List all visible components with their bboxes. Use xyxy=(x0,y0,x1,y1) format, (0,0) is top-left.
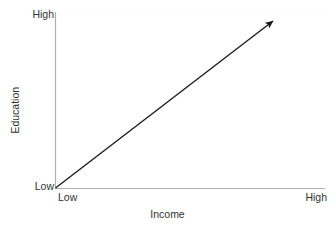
chart-plot-area xyxy=(0,0,335,227)
y-axis-tick-low: Low xyxy=(35,181,54,192)
x-axis-tick-low: Low xyxy=(58,192,77,203)
x-axis-title: Income xyxy=(0,209,335,220)
x-axis-tick-high: High xyxy=(305,192,327,203)
chart-canvas: High Low Low High Income Education xyxy=(0,0,335,227)
y-axis-tick-high: High xyxy=(32,9,54,20)
data-trend-arrow xyxy=(56,21,274,188)
y-axis-title: Education xyxy=(10,65,21,155)
